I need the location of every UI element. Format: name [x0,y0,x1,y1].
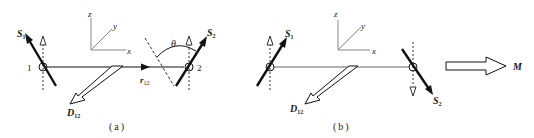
spin1-arrow-b [257,44,283,86]
coordinate-axes-b [338,20,370,50]
dm-vector-label-a: D12 [66,107,80,119]
magnetization-label: M [512,61,523,72]
spin2-label-a: S2 [207,27,216,39]
site2-label: 2 [197,63,202,73]
panel-b-caption: (b) [333,121,351,133]
dm-vector-label-b: D12 [289,103,303,115]
panel-b: z x y S1 S2 D12 M (b) [257,9,523,133]
panel-a-caption: (a) [109,121,126,133]
dm-interaction-diagram: z x y r12 S1 1 S2 2 θ [0,0,534,138]
axis-z-label-a: z [87,9,92,19]
spin1-reference-line [145,38,174,86]
hollow-arrow-down-icon [410,87,416,96]
angle-theta-label: θ [171,38,176,49]
axis-y-label-a: y [112,21,117,31]
hollow-arrow-up-icon [40,36,46,45]
axis-x-label-b: x [371,46,376,56]
bond-vector-label: r12 [140,75,150,86]
dm-vector-arrow-b [305,66,358,104]
axis-x-label-a: x [126,46,131,56]
magnetization-arrow [446,57,506,75]
angle-arc [157,46,196,57]
panel-a: z x y r12 S1 1 S2 2 θ [17,9,216,133]
spin2-arrow-b [402,49,429,89]
spin1-label-a: S1 [17,28,26,40]
hollow-arrow-up-icon [186,36,192,45]
spin1-arrow-a [29,40,56,86]
dm-vector-arrow-a [70,66,123,104]
axis-z-label-b: z [333,9,338,19]
spin1-label-b: S1 [285,28,294,40]
bond-arrowhead-icon [141,64,150,71]
axis-y-label-b: y [360,21,365,31]
hollow-arrow-up-icon [267,36,273,45]
spin2-label-b: S2 [433,95,442,107]
coordinate-axes-a [91,18,126,50]
spin1-arrowhead-icon [25,33,33,44]
site1-label: 1 [27,63,32,73]
